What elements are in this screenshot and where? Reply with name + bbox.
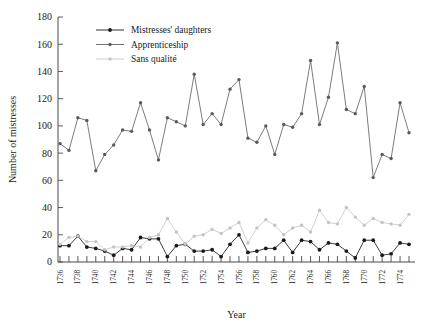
data-point	[300, 224, 303, 227]
data-point	[94, 240, 97, 243]
data-point	[273, 224, 276, 227]
x-tick-label: 1770	[361, 270, 369, 285]
data-point	[130, 244, 133, 247]
data-point	[291, 251, 295, 255]
data-point	[94, 246, 98, 250]
data-point	[121, 128, 124, 131]
data-point	[318, 248, 322, 252]
x-tick-label: 1736	[57, 270, 65, 285]
data-point	[193, 234, 196, 237]
data-point	[94, 169, 97, 172]
data-point	[201, 249, 205, 253]
data-point	[362, 238, 366, 242]
data-point	[398, 101, 401, 104]
y-axis: 020406080100120140160180	[37, 11, 63, 267]
series-1	[58, 233, 411, 260]
data-point	[246, 251, 250, 255]
data-point	[300, 238, 304, 242]
y-tick-label: 160	[37, 39, 52, 50]
data-point	[228, 242, 232, 246]
x-tick-label: 1760	[271, 270, 279, 285]
data-point	[130, 248, 134, 252]
x-tick-label: 1768	[343, 270, 351, 285]
data-point	[309, 230, 312, 233]
data-point	[291, 226, 294, 229]
data-point	[372, 176, 375, 179]
data-point	[237, 233, 241, 237]
x-tick-label: 1762	[289, 270, 297, 285]
legend-swatch-marker	[108, 57, 111, 60]
data-point	[309, 240, 313, 244]
data-point	[210, 228, 213, 231]
x-axis: 1736173817401742174417461748175017521754…	[57, 256, 409, 284]
y-tick-label: 0	[47, 256, 52, 267]
data-point	[264, 218, 267, 221]
y-tick-label: 180	[37, 11, 52, 22]
data-point	[354, 215, 357, 218]
y-tick-label: 80	[42, 148, 52, 159]
x-axis-title: Year	[227, 309, 246, 320]
series-line	[60, 208, 409, 250]
data-point	[67, 236, 70, 239]
data-point	[58, 243, 61, 246]
data-point	[130, 130, 133, 133]
data-point	[380, 221, 383, 224]
x-tick-label: 1746	[146, 270, 154, 285]
data-point	[184, 124, 187, 127]
data-point	[210, 248, 214, 252]
x-tick-label: 1772	[379, 270, 387, 285]
data-point	[264, 124, 267, 127]
y-tick-label: 140	[37, 66, 52, 77]
x-tick-label: 1752	[200, 270, 208, 285]
data-point	[219, 123, 222, 126]
data-point	[363, 85, 366, 88]
y-tick-label: 100	[37, 120, 52, 131]
data-point	[371, 238, 375, 242]
data-point	[327, 96, 330, 99]
data-point	[246, 136, 249, 139]
data-point	[85, 245, 89, 249]
y-axis-title: Number of mistresses	[7, 96, 18, 183]
data-point	[407, 213, 410, 216]
data-point	[184, 243, 187, 246]
data-point	[336, 222, 339, 225]
data-point	[103, 153, 106, 156]
data-point	[318, 209, 321, 212]
y-tick-label: 20	[42, 229, 52, 240]
data-point	[327, 241, 331, 245]
data-point	[139, 245, 142, 248]
x-tick-label: 1744	[128, 270, 136, 285]
data-point	[398, 241, 402, 245]
data-point	[264, 246, 268, 250]
x-tick-label: 1748	[164, 270, 172, 285]
x-tick-label: 1740	[92, 270, 100, 285]
x-tick-label: 1766	[325, 270, 333, 285]
series-line	[60, 43, 409, 178]
data-point	[103, 248, 106, 251]
data-point	[237, 78, 240, 81]
x-tick-label: 1764	[307, 270, 315, 285]
data-point	[157, 233, 160, 236]
data-point	[219, 232, 222, 235]
data-point	[67, 149, 70, 152]
data-point	[389, 252, 393, 256]
x-tick-label: 1758	[253, 270, 261, 285]
data-point	[255, 141, 258, 144]
chart-legend: Mistresses' daughtersApprenticeshipSans …	[96, 25, 211, 64]
data-point	[282, 233, 285, 236]
legend-swatch-marker	[108, 28, 112, 32]
data-point	[148, 236, 151, 239]
data-point	[255, 249, 259, 253]
legend-swatch-marker	[108, 43, 111, 46]
data-point	[157, 158, 160, 161]
data-point	[85, 240, 88, 243]
x-tick-label: 1742	[110, 270, 118, 285]
data-point	[291, 126, 294, 129]
data-point	[58, 142, 61, 145]
data-point	[148, 128, 151, 131]
data-point	[139, 236, 143, 240]
data-point	[175, 230, 178, 233]
data-point	[380, 253, 384, 257]
data-point	[273, 246, 277, 250]
data-point	[237, 221, 240, 224]
